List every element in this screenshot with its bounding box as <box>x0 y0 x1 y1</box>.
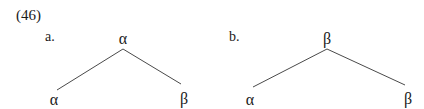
tree-a-left-edge <box>57 49 123 90</box>
tree-a-right-edge <box>123 49 181 84</box>
tree-b-right-edge <box>327 49 405 85</box>
tree-b-left-edge <box>253 49 327 87</box>
tree-edges <box>0 0 424 109</box>
